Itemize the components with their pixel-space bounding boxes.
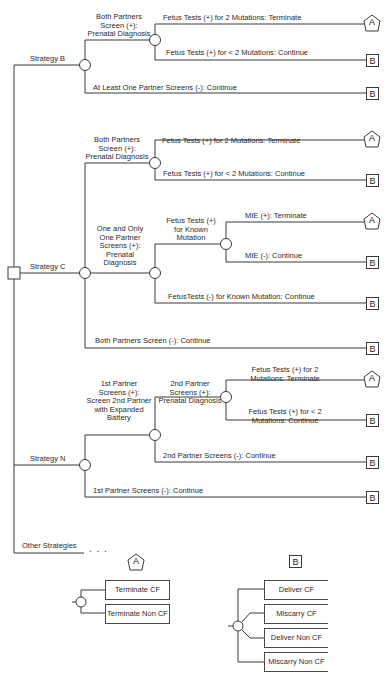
branch-label: MIE (+): Terminate (245, 212, 307, 221)
chance-node (80, 460, 91, 471)
chance-node (80, 60, 91, 71)
branch-label: Both Partners Screen (+): Prenatal Diagn… (86, 13, 152, 39)
branch-label: 2nd Partner Screens (-): Continue (163, 452, 276, 461)
branch-label: Fetus Tests (+) for 2 Mutations: Termina… (162, 137, 300, 146)
outcome-box-miscarry-non-cf: Miscarry Non CF (264, 652, 328, 672)
chance-node (150, 430, 161, 441)
branch-label: 2nd Partner Screens (+): Prenatal Diagno… (156, 380, 224, 406)
terminal-b-box: B (366, 54, 379, 67)
chance-node (80, 268, 91, 279)
terminal-a-label: A (366, 373, 378, 383)
legend-b-chance-node (233, 621, 243, 631)
branch-label: Both Partners Screen (-): Continue (95, 337, 210, 346)
outcome-box-terminate-non-cf: Terminate Non CF (105, 604, 170, 624)
strategy-n-label: Strategy N (30, 455, 65, 464)
legend-b-symbol: B (289, 555, 302, 568)
branch-label: Both Partners Screen (+): Prenatal Diagn… (84, 136, 150, 162)
legend-a-chance-node (76, 597, 86, 607)
strategy-c-label: Strategy C (30, 263, 65, 272)
outcome-box-deliver-non-cf: Deliver Non CF (264, 628, 328, 648)
label-line: Prenatal Diagnosis (86, 30, 152, 39)
branch-label: FetusTests (-) for Known Mutation: Conti… (168, 293, 315, 302)
outcome-box-terminate-cf: Terminate CF (105, 580, 170, 600)
chance-node (150, 268, 161, 279)
chance-node (150, 158, 161, 169)
branch-label: 1st Partner Screens (+): Screen 2nd Part… (84, 380, 154, 423)
branch-label: 1st Partner Screens (-): Continue (93, 487, 203, 496)
terminal-a-label: A (366, 215, 378, 225)
outcome-box-deliver-cf: Deliver CF (264, 580, 328, 600)
label-line: Mutation (160, 234, 222, 243)
terminal-b-box: B (366, 456, 379, 469)
terminal-b-box: B (366, 414, 379, 427)
terminal-b-box: B (366, 342, 379, 355)
label-line: Battery (84, 414, 154, 423)
label-line: Prenatal Diagnosis (156, 397, 224, 406)
terminal-a-label: A (366, 133, 378, 143)
chance-node (221, 239, 232, 250)
branch-label: Fetus Tests (+) for < 2 Mutations: Conti… (166, 49, 308, 58)
legend-a-symbol: A (130, 556, 142, 566)
ellipsis: . . . (89, 543, 108, 554)
label-line: Prenatal Diagnosis (84, 153, 150, 162)
branch-label: Fetus Tests (+) for 2 Mutations: Termina… (240, 366, 330, 383)
terminal-b-box: B (366, 297, 379, 310)
terminal-b-box: B (366, 174, 379, 187)
label-line: Mutations: Continue (240, 417, 330, 426)
branch-label: MIE (-): Continue (245, 252, 302, 261)
terminal-a-label: A (366, 17, 378, 27)
label-line: Mutations: Terminate (240, 375, 330, 384)
outcome-box-miscarry-cf: Miscarry CF (264, 604, 328, 624)
strategy-b-label: Strategy B (30, 55, 65, 64)
branch-label: One and Only One Partner Screens (+): Pr… (90, 225, 150, 268)
terminal-b-box: B (366, 491, 379, 504)
terminal-b-box: B (366, 87, 379, 100)
terminal-b-box: B (366, 256, 379, 269)
branch-label: Fetus Tests (+) for 2 Mutations: Termina… (163, 14, 301, 23)
branch-label: Fetus Tests (+) for Known Mutation (160, 217, 222, 243)
decision-node (8, 267, 20, 279)
branch-label: At Least One Partner Screens (-): Contin… (93, 84, 237, 93)
branch-label: Fetus Tests (+) for < 2 Mutations: Conti… (163, 170, 305, 179)
label-line: Diagnosis (90, 259, 150, 268)
other-strategies-label: Other Strategies (22, 542, 77, 551)
branch-label: Fetus Tests (+) for < 2 Mutations: Conti… (240, 408, 330, 425)
